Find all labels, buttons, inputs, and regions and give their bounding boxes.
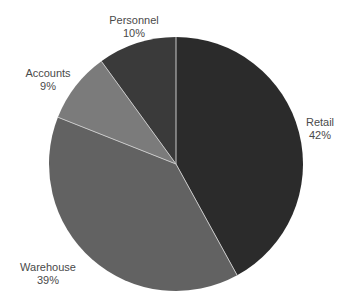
label-personnel-name: Personnel <box>109 14 159 27</box>
label-personnel: Personnel 10% <box>109 14 159 40</box>
label-warehouse: Warehouse 39% <box>20 261 76 287</box>
label-accounts-name: Accounts <box>25 67 70 80</box>
label-accounts: Accounts 9% <box>25 67 70 93</box>
label-accounts-pct: 9% <box>25 80 70 93</box>
label-warehouse-name: Warehouse <box>20 261 76 274</box>
label-retail-pct: 42% <box>306 129 334 142</box>
label-personnel-pct: 10% <box>109 27 159 40</box>
label-warehouse-pct: 39% <box>20 274 76 287</box>
label-retail-name: Retail <box>306 116 334 129</box>
label-retail: Retail 42% <box>306 116 334 142</box>
